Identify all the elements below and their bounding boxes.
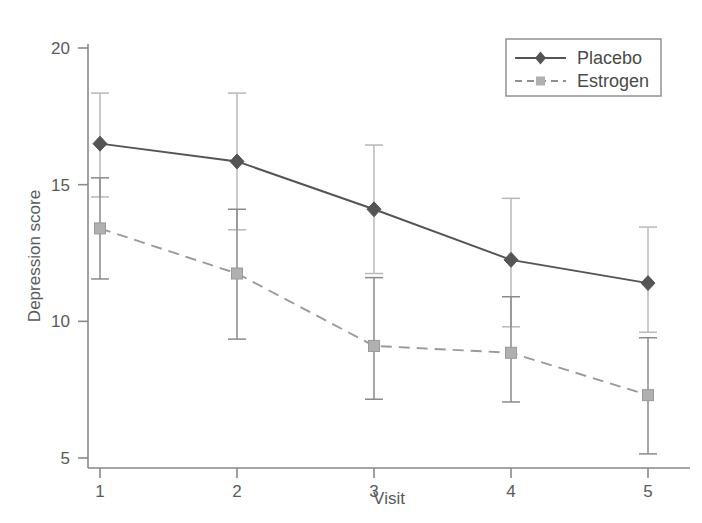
- legend-label-estrogen: Estrogen: [577, 71, 649, 91]
- y-tick-label: 5: [61, 449, 70, 468]
- data-point-marker[interactable]: [369, 340, 380, 351]
- data-point-marker[interactable]: [95, 223, 106, 234]
- chart-legend[interactable]: Placebo Estrogen: [506, 39, 661, 96]
- x-axis-title: Visit: [373, 489, 405, 508]
- x-tick-label: 1: [95, 482, 104, 501]
- x-tick-label: 4: [506, 482, 515, 501]
- y-tick-label: 10: [51, 312, 70, 331]
- y-axis-title: Depression score: [25, 190, 44, 322]
- y-tick-label: 15: [51, 176, 70, 195]
- data-point-marker[interactable]: [232, 268, 243, 279]
- depression-score-line-chart: 5101520 12345 Depression score Visit Pla…: [0, 0, 702, 523]
- legend-label-placebo: Placebo: [577, 48, 642, 68]
- data-point-marker[interactable]: [643, 390, 654, 401]
- square-marker-icon: [536, 77, 545, 86]
- y-tick-label: 20: [51, 39, 70, 58]
- figure-container: 5101520 12345 Depression score Visit Pla…: [0, 0, 702, 523]
- x-tick-label: 2: [232, 482, 241, 501]
- data-point-marker[interactable]: [506, 347, 517, 358]
- x-tick-label: 5: [643, 482, 652, 501]
